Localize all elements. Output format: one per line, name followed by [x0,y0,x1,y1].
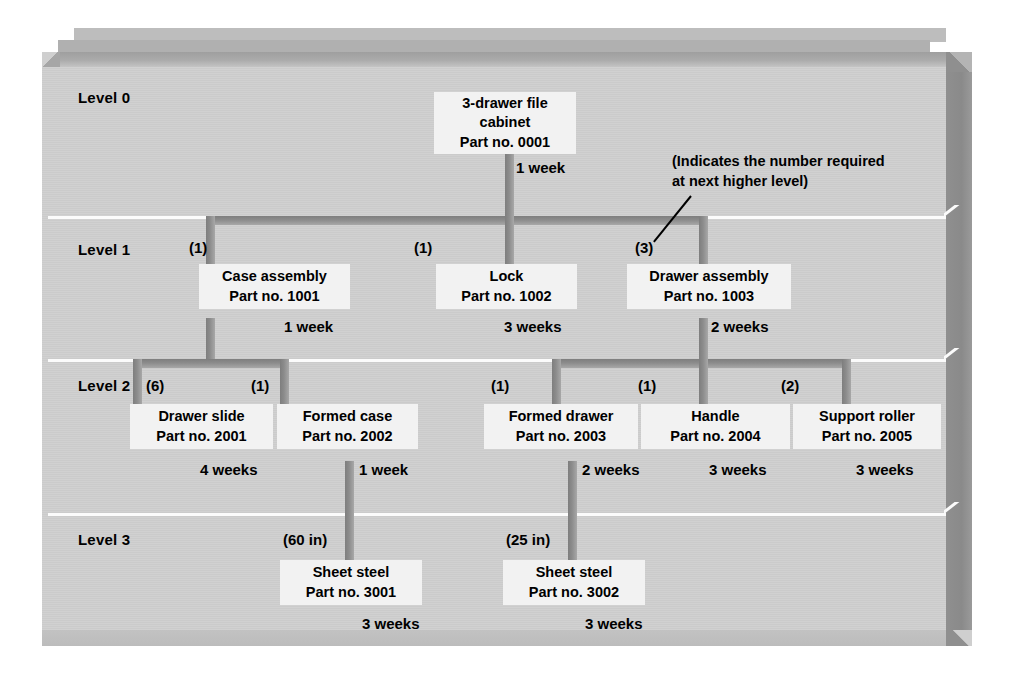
part-box-2003[interactable]: Formed drawer Part no. 2003 [484,404,638,449]
qty-3002: (25 in) [506,531,550,548]
qty-1003: (3) [635,239,653,256]
connector-stem-case-assembly [206,318,215,359]
level-divider-1-tail [944,205,972,227]
level-label-0: Level 0 [78,89,130,106]
lead-time-2004: 3 weeks [709,461,767,478]
part-number-1002: Part no. 1002 [461,287,551,306]
qty-2001: (6) [146,377,164,394]
part-name-2004: Handle [691,407,739,426]
part-name-1001: Case assembly [222,267,327,286]
level-divider-3-tail [944,502,972,524]
part-number-3002: Part no. 3002 [529,583,619,602]
bom-diagram-canvas: Level 0 Level 1 Level 2 Level 3 3-drawer… [0,0,1019,697]
part-box-3001[interactable]: Sheet steel Part no. 3001 [280,560,422,605]
connector-drop-formed-drawer [552,359,561,404]
part-box-0001[interactable]: 3-drawer file cabinet Part no. 0001 [434,92,576,154]
lead-time-2002: 1 week [359,461,408,478]
part-name-2003: Formed drawer [509,407,614,426]
quantity-annotation-line1: (Indicates the number required [672,152,885,172]
level-divider-2-tail [944,348,972,370]
part-name-2005: Support roller [819,407,915,426]
lead-time-0001: 1 week [516,159,565,176]
part-box-2001[interactable]: Drawer slide Part no. 2001 [130,404,273,449]
part-name-3002: Sheet steel [536,563,613,582]
frame-top-left-wedge [42,52,60,67]
part-name-0001-line2: cabinet [480,113,531,132]
part-box-3002[interactable]: Sheet steel Part no. 3002 [503,560,645,605]
part-number-1001: Part no. 1001 [229,287,319,306]
connector-level1-bus [206,216,708,225]
qty-1001: (1) [189,239,207,256]
qty-1002: (1) [414,239,432,256]
part-number-2001: Part no. 2001 [156,427,246,446]
frame-right-top-wedge [946,52,972,72]
connector-drop-lock [505,216,514,264]
connector-formed-drawer-to-sheet-steel-3002 [568,461,577,560]
part-number-1003: Part no. 1003 [664,287,754,306]
connector-drop-drawer-assembly [699,216,708,264]
lead-time-2003: 2 weeks [582,461,640,478]
part-box-2002[interactable]: Formed case Part no. 2002 [277,404,418,449]
part-box-2005[interactable]: Support roller Part no. 2005 [793,404,941,449]
connector-stem-drawer-assembly [699,318,708,359]
part-number-0001: Part no. 0001 [460,133,550,152]
lead-time-1003: 2 weeks [711,318,769,335]
part-name-2001: Drawer slide [158,407,244,426]
part-name-1003: Drawer assembly [649,267,768,286]
part-name-2002: Formed case [303,407,392,426]
connector-level2-bus-left [133,359,289,368]
quantity-annotation: (Indicates the number required at next h… [672,152,885,191]
part-name-0001-line1: 3-drawer file [462,94,547,113]
lead-time-1002: 3 weeks [504,318,562,335]
lead-time-3002: 3 weeks [585,615,643,632]
connector-root-stem [505,153,514,216]
part-number-3001: Part no. 3001 [306,583,396,602]
part-number-2005: Part no. 2005 [822,427,912,446]
part-box-1002[interactable]: Lock Part no. 1002 [436,264,577,309]
frame-bottom-right-wedge [946,630,972,646]
connector-formed-case-to-sheet-steel-3001 [345,461,354,560]
frame-top-bevel [42,52,946,67]
level-label-1: Level 1 [78,241,130,258]
level-label-2: Level 2 [78,377,130,394]
quantity-annotation-line2: at next higher level) [672,172,885,192]
part-number-2004: Part no. 2004 [670,427,760,446]
level-label-3: Level 3 [78,531,130,548]
qty-2002: (1) [251,377,269,394]
lead-time-2001: 4 weeks [200,461,258,478]
connector-drop-formed-case [280,359,289,404]
connector-drop-handle [699,359,708,404]
qty-2005: (2) [781,377,799,394]
connector-drop-case-assembly [206,216,215,264]
part-name-3001: Sheet steel [313,563,390,582]
part-box-1003[interactable]: Drawer assembly Part no. 1003 [627,264,791,309]
part-number-2003: Part no. 2003 [516,427,606,446]
qty-2004: (1) [638,377,656,394]
lead-time-3001: 3 weeks [362,615,420,632]
connector-drop-support-roller [842,359,851,404]
lead-time-2005: 3 weeks [856,461,914,478]
frame-bottom-face [42,630,946,646]
qty-2003: (1) [491,377,509,394]
part-box-2004[interactable]: Handle Part no. 2004 [641,404,790,449]
lead-time-1001: 1 week [284,318,333,335]
qty-3001: (60 in) [283,531,327,548]
connector-drop-drawer-slide [133,359,142,404]
level-divider-3 [48,513,946,516]
part-box-1001[interactable]: Case assembly Part no. 1001 [199,264,350,309]
part-name-1002: Lock [490,267,524,286]
part-number-2002: Part no. 2002 [302,427,392,446]
